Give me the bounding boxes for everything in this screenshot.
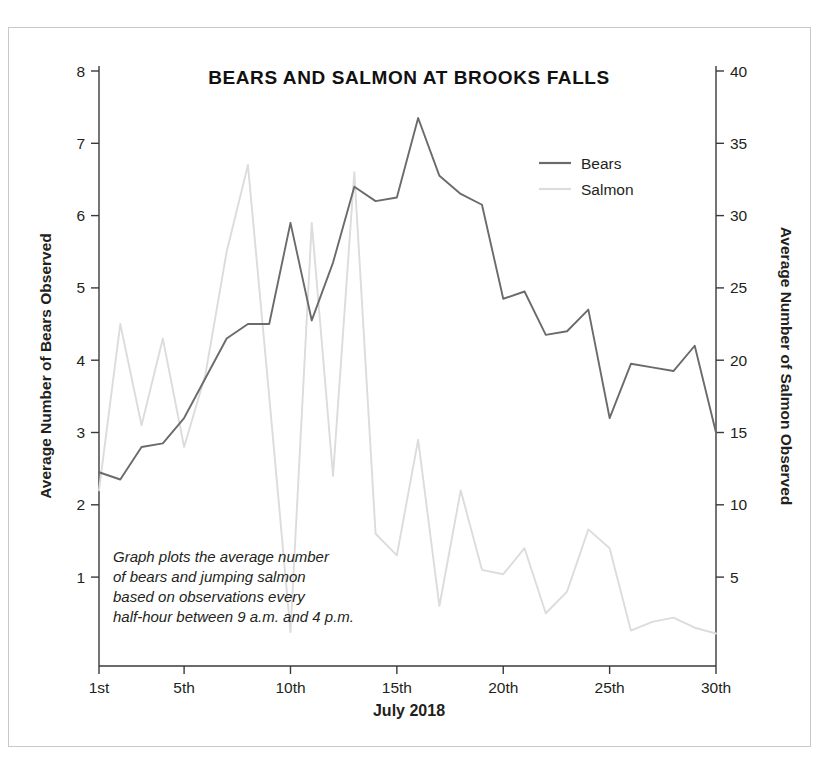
right-tick-label: 30 [730, 207, 748, 224]
left-tick-label: 1 [76, 569, 85, 586]
left-tick-label: 6 [76, 207, 85, 224]
legend-label-salmon: Salmon [581, 181, 634, 198]
x-tick-label: 10th [275, 679, 305, 696]
right-axis-title: Average Number of Salmon Observed [778, 227, 795, 506]
left-tick-label: 3 [76, 424, 85, 441]
x-tick-label: 30th [701, 679, 731, 696]
left-axis-ticks: 12345678 [76, 63, 99, 586]
note-line: Graph plots the average number [113, 548, 330, 565]
left-tick-label: 7 [76, 135, 85, 152]
note-line: based on observations every [113, 588, 306, 605]
right-tick-label: 35 [730, 135, 747, 152]
x-tick-label: 1st [89, 679, 110, 696]
note-line: of bears and jumping salmon [113, 568, 306, 585]
right-tick-label: 25 [730, 279, 747, 296]
right-tick-label: 20 [730, 352, 748, 369]
x-axis-title: July 2018 [373, 702, 445, 719]
chart-canvas: BEARS AND SALMON AT BROOKS FALLS 1234567… [9, 28, 810, 746]
left-axis-title: Average Number of Bears Observed [37, 233, 54, 499]
left-tick-label: 8 [76, 63, 85, 80]
x-tick-label: 25th [595, 679, 625, 696]
right-tick-label: 15 [730, 424, 747, 441]
note-line: half-hour between 9 a.m. and 4 p.m. [113, 608, 354, 625]
legend: BearsSalmon [539, 155, 634, 198]
x-axis-ticks: 1st5th10th15th20th25th30th [89, 666, 731, 696]
right-axis-ticks: 510152025303540 [716, 63, 748, 586]
x-tick-label: 20th [488, 679, 518, 696]
left-tick-label: 4 [76, 352, 85, 369]
figure-frame: BEARS AND SALMON AT BROOKS FALLS 1234567… [8, 27, 811, 747]
right-tick-label: 40 [730, 63, 748, 80]
x-tick-label: 5th [173, 679, 195, 696]
series-line-bears [99, 118, 716, 480]
left-tick-label: 5 [76, 279, 85, 296]
x-tick-label: 15th [382, 679, 412, 696]
left-tick-label: 2 [76, 496, 85, 513]
right-tick-label: 10 [730, 496, 748, 513]
legend-label-bears: Bears [581, 155, 622, 172]
chart-note: Graph plots the average numberof bears a… [113, 548, 354, 625]
chart-title: BEARS AND SALMON AT BROOKS FALLS [208, 67, 610, 88]
right-tick-label: 5 [730, 569, 739, 586]
chart-page: BEARS AND SALMON AT BROOKS FALLS 1234567… [0, 0, 823, 766]
